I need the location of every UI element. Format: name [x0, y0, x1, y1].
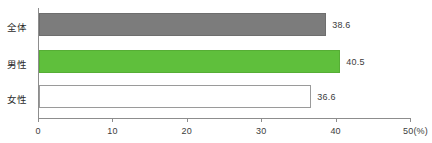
bar-chart-screenshot: 01020304050(%) 38.640.536.6 全体男性女性 [0, 0, 432, 143]
bar-1 [39, 13, 326, 36]
x-tick-label-30: 30 [256, 126, 266, 136]
bar-value-label-3: 36.6 [317, 92, 335, 102]
category-label-2: 男性 [0, 57, 34, 71]
plot-area: 01020304050(%) 38.640.536.6 [38, 8, 410, 118]
x-tick-label-50: 50(%) [403, 126, 428, 136]
x-tick-label-0: 0 [35, 126, 40, 136]
x-tick-0 [38, 118, 39, 122]
bar-value-label-2: 40.5 [346, 57, 364, 67]
x-tick-40 [336, 118, 337, 122]
x-tick-50 [410, 118, 411, 122]
x-tick-label-20: 20 [182, 126, 192, 136]
x-tick-label-10: 10 [107, 126, 117, 136]
x-axis-line [38, 118, 410, 119]
category-label-3: 女性 [0, 92, 34, 106]
category-label-1: 全体 [0, 20, 34, 34]
bar-value-label-1: 38.6 [332, 20, 350, 30]
bar-3 [39, 85, 311, 108]
x-tick-label-40: 40 [330, 126, 340, 136]
x-tick-20 [187, 118, 188, 122]
x-tick-10 [112, 118, 113, 122]
bar-2 [39, 50, 340, 73]
x-tick-30 [261, 118, 262, 122]
